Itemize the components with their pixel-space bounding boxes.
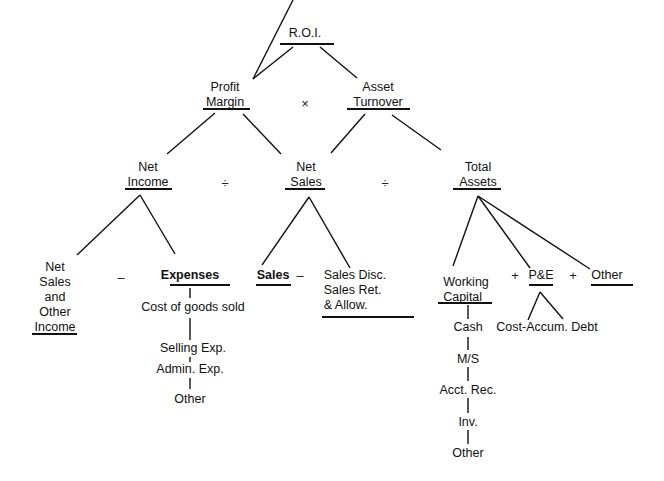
- diagram-connectors: [0, 0, 664, 481]
- profit-margin-line1: Profit: [206, 80, 244, 95]
- net-sales-underline: [285, 188, 325, 190]
- wc-item-other: Other: [452, 446, 483, 461]
- working-capital-line1: Working: [443, 275, 489, 290]
- sales-deductions-label: Sales Disc. Sales Ret. & Allow.: [324, 268, 387, 313]
- multiply-operator: ×: [301, 96, 309, 111]
- divide-operator-1: ÷: [221, 176, 228, 191]
- allow-line: & Allow.: [324, 298, 387, 313]
- sales-label: Sales: [257, 268, 290, 283]
- net-income-line1: Net: [128, 160, 169, 175]
- asset-turnover-line1: Asset: [353, 80, 403, 95]
- sales-underline: [256, 284, 291, 286]
- wc-item-acct-rec: Acct. Rec.: [440, 383, 497, 398]
- net-income-underline: [125, 188, 172, 190]
- other-assets-underline: [591, 284, 633, 286]
- connector-roi-profit: [253, 0, 293, 79]
- net-sales-label: Net Sales: [290, 160, 321, 190]
- nsoi-underline: [32, 333, 77, 335]
- other-assets-label: Other: [591, 268, 622, 283]
- expense-item-selling: Selling Exp.: [160, 341, 226, 356]
- asset-turnover-underline: [347, 108, 410, 110]
- wc-item-inv: Inv.: [458, 415, 477, 430]
- roi-underline: [280, 43, 334, 45]
- net-income-label: Net Income: [128, 160, 169, 190]
- expenses-underline: [170, 284, 230, 286]
- profit-margin-label: Profit Margin: [206, 80, 244, 110]
- net-sales-other-income-label: Net Sales and Other Income: [35, 260, 76, 335]
- working-capital-label: Working Capital: [443, 275, 489, 305]
- sales-ret-line: Sales Ret.: [324, 283, 387, 298]
- total-assets-line1: Total: [459, 160, 497, 175]
- roi-label: R.O.I.: [289, 26, 322, 41]
- nsoi-line2: Sales: [35, 275, 76, 290]
- pe-detail-label: Cost-Accum. Debt: [496, 320, 597, 335]
- total-assets-underline: [453, 188, 501, 190]
- expenses-label: Expenses: [161, 268, 219, 283]
- pe-label: P&E: [528, 268, 553, 283]
- expense-item-admin: Admin. Exp.: [156, 362, 223, 377]
- divide-operator-2: ÷: [381, 176, 388, 191]
- expense-item-other: Other: [174, 392, 205, 407]
- expense-item-cogs: Cost of goods sold: [141, 300, 245, 315]
- plus-operator-2: +: [569, 268, 577, 283]
- wc-item-ms: M/S: [457, 352, 479, 367]
- net-sales-line1: Net: [290, 160, 321, 175]
- nsoi-line4: Other: [35, 305, 76, 320]
- nsoi-line3: and: [35, 290, 76, 305]
- minus-operator-2: –: [296, 268, 303, 283]
- total-assets-label: Total Assets: [459, 160, 497, 190]
- pe-underline: [529, 284, 553, 286]
- asset-turnover-label: Asset Turnover: [353, 80, 403, 110]
- profit-margin-underline: [203, 108, 250, 110]
- sales-disc-line: Sales Disc.: [324, 268, 387, 283]
- plus-operator-1: +: [511, 268, 519, 283]
- wc-item-cash: Cash: [453, 320, 482, 335]
- minus-operator-1: –: [117, 270, 124, 285]
- sales-deductions-underline: [322, 316, 414, 318]
- nsoi-line1: Net: [35, 260, 76, 275]
- working-capital-underline: [438, 302, 492, 304]
